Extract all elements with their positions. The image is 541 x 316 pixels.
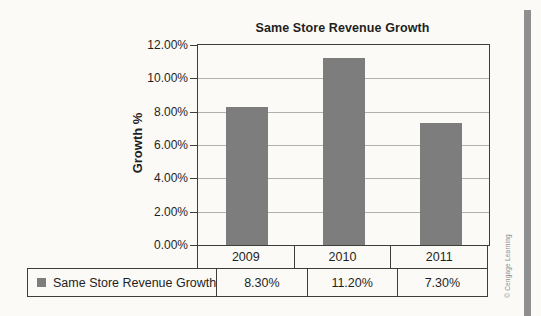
- bar-2009: [226, 107, 268, 245]
- y-axis-tick-mark: [190, 45, 197, 46]
- category-cell-2010: 2010: [294, 246, 391, 268]
- y-axis-tick-labels: 0.00%2.00%4.00%6.00%8.00%10.00%12.00%: [0, 44, 188, 246]
- plot-area: [197, 44, 490, 246]
- value-cell-2011: 7.30%: [397, 269, 487, 296]
- value-cell-2009: 8.30%: [216, 269, 306, 296]
- y-tick-label: 10.00%: [0, 72, 188, 85]
- bar-2011: [420, 123, 462, 245]
- y-tick-label: 12.00%: [0, 39, 188, 52]
- y-tick-label: 4.00%: [0, 172, 188, 185]
- page-edge-strip: [524, 10, 531, 316]
- copyright-credit: © Cengage Learning: [504, 234, 511, 298]
- y-tick-label: 6.00%: [0, 139, 188, 152]
- category-cell-2011: 2011: [390, 246, 487, 268]
- y-axis-tick-mark: [190, 212, 197, 213]
- chart-title: Same Store Revenue Growth: [197, 21, 488, 35]
- category-cell-2009: 2009: [198, 246, 294, 268]
- y-axis-tick-mark: [190, 178, 197, 179]
- y-axis-tick-mark: [190, 78, 197, 79]
- y-tick-label: 2.00%: [0, 206, 188, 219]
- data-table-row: Same Store Revenue Growth 8.30%11.20%7.3…: [27, 268, 488, 297]
- legend-series-label: Same Store Revenue Growth: [53, 276, 216, 290]
- y-axis-tick-mark: [190, 112, 197, 113]
- value-cell-2010: 11.20%: [307, 269, 397, 296]
- x-axis-category-row: 200920102011: [197, 246, 488, 268]
- legend-cell: Same Store Revenue Growth: [28, 269, 216, 296]
- y-tick-label: 8.00%: [0, 106, 188, 119]
- y-axis-tick-mark: [190, 245, 197, 246]
- legend-marker-swatch: [37, 278, 46, 287]
- y-axis-tick-mark: [190, 145, 197, 146]
- bar-2010: [323, 58, 365, 245]
- y-tick-label: 0.00%: [0, 239, 188, 252]
